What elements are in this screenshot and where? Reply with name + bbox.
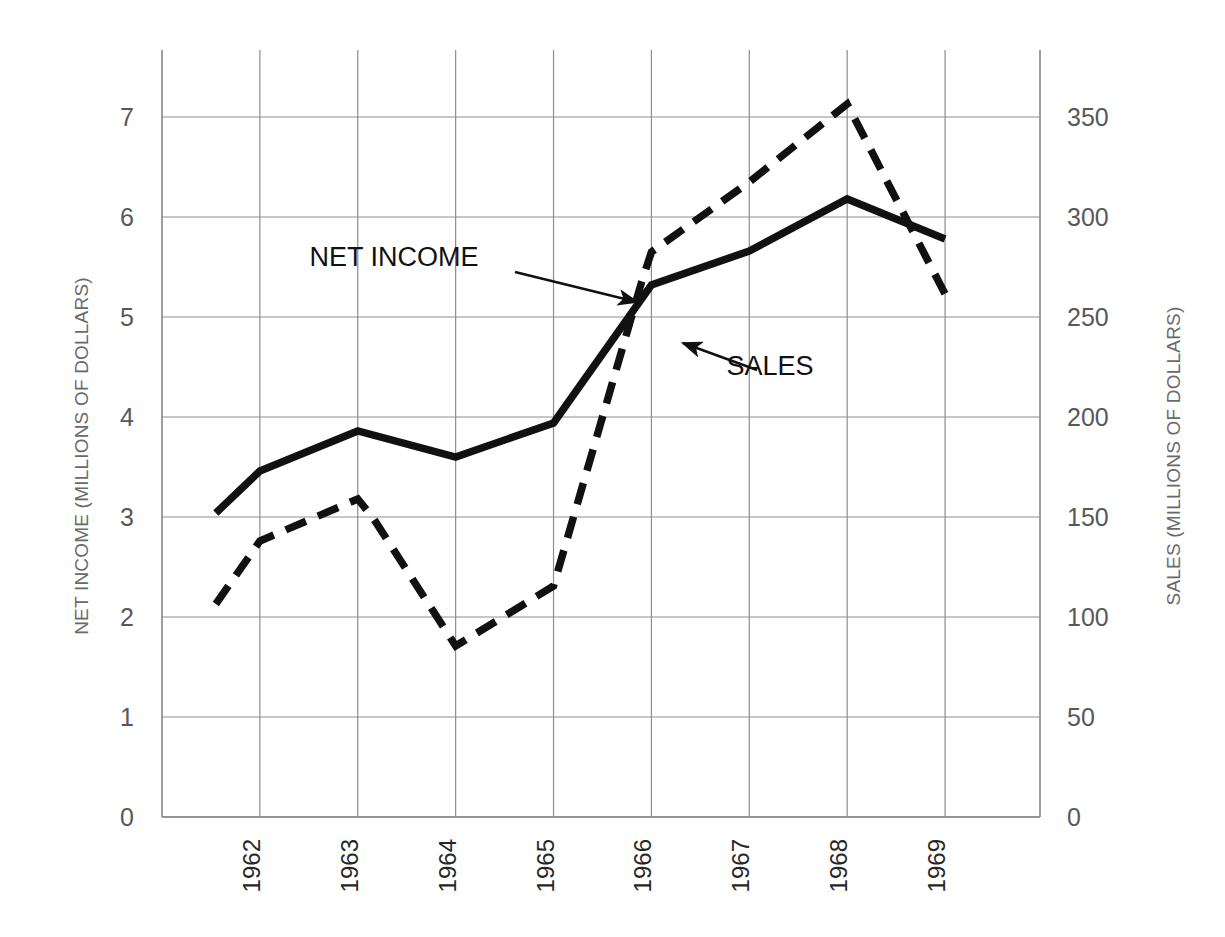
left-axis-tick-label: 7 — [120, 103, 134, 131]
right-axis-title: SALES (MILLIONS OF DOLLARS) — [1163, 146, 1185, 766]
x-axis-tick-label: 1967 — [727, 839, 754, 892]
x-axis-tick-label: 1969 — [923, 839, 950, 892]
left-axis-tick-label: 6 — [120, 203, 134, 231]
series-line-net-income — [216, 104, 945, 646]
left-axis-tick-label: 1 — [120, 703, 134, 731]
x-axis-tick-label: 1963 — [336, 839, 363, 892]
left-axis-tick-label: 2 — [120, 603, 134, 631]
chart-canvas: 0123456705010015020025030035019621963196… — [0, 0, 1225, 937]
left-axis-title: NET INCOME (MILLIONS OF DOLLARS) — [71, 146, 93, 766]
right-axis-tick-label: 200 — [1067, 403, 1109, 431]
x-axis-tick-label: 1965 — [532, 839, 559, 892]
axis-tick-labels: 0123456705010015020025030035019621963196… — [120, 103, 1109, 892]
right-axis-tick-label: 350 — [1067, 103, 1109, 131]
data-series — [216, 104, 945, 646]
x-axis-tick-label: 1968 — [825, 839, 852, 892]
x-axis-tick-label: 1964 — [434, 839, 461, 892]
chart-container: 0123456705010015020025030035019621963196… — [0, 0, 1225, 937]
annotation-label-net-income: NET INCOME — [309, 242, 478, 272]
x-axis-tick-label: 1962 — [238, 839, 265, 892]
right-axis-tick-label: 100 — [1067, 603, 1109, 631]
left-axis-tick-label: 3 — [120, 503, 134, 531]
annotation-arrow — [515, 272, 637, 302]
x-axis-tick-label: 1966 — [629, 839, 656, 892]
right-axis-tick-label: 300 — [1067, 203, 1109, 231]
right-axis-tick-label: 50 — [1067, 703, 1095, 731]
right-axis-tick-label: 250 — [1067, 303, 1109, 331]
left-axis-tick-label: 0 — [120, 803, 134, 831]
right-axis-tick-label: 150 — [1067, 503, 1109, 531]
annotation-label-sales: SALES — [726, 351, 813, 381]
series-annotations: NET INCOMESALES — [309, 242, 813, 381]
left-axis-tick-label: 5 — [120, 303, 134, 331]
right-axis-tick-label: 0 — [1067, 803, 1081, 831]
left-axis-tick-label: 4 — [120, 403, 134, 431]
